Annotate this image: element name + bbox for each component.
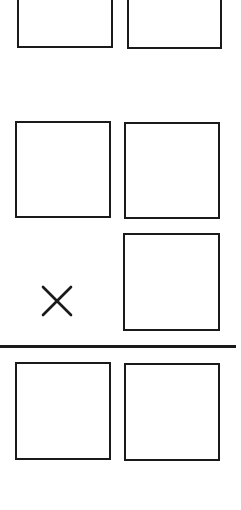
- multiplicand-box-tens[interactable]: [15, 121, 111, 218]
- multiplier-box-ones[interactable]: [123, 233, 220, 331]
- top-row-box-tens[interactable]: [17, 0, 113, 48]
- top-row-box-ones[interactable]: [127, 0, 222, 49]
- sum-line-divider: [0, 345, 236, 348]
- product-box-ones[interactable]: [124, 363, 220, 461]
- product-box-tens[interactable]: [15, 362, 111, 460]
- multiply-sign-icon: [40, 284, 74, 318]
- multiplicand-box-ones[interactable]: [124, 122, 220, 219]
